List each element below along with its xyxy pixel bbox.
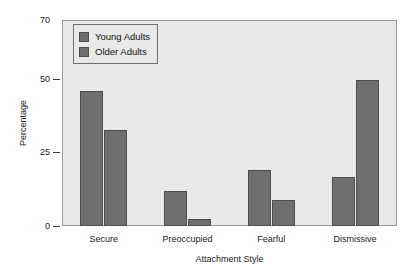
y-axis-tick-mark	[53, 152, 60, 153]
x-axis-title: Attachment Style	[62, 254, 397, 264]
legend-swatch-icon	[79, 47, 89, 57]
bar	[356, 80, 379, 226]
x-axis-tick-label: Dismissive	[295, 232, 414, 246]
legend-item-young-adults: Young Adults	[79, 29, 150, 44]
legend: Young Adults Older Adults	[73, 24, 158, 64]
y-axis-tick-mark	[53, 226, 60, 227]
legend-item-older-adults: Older Adults	[79, 44, 150, 59]
bar	[332, 177, 355, 226]
y-axis-tick-label: 25	[40, 145, 50, 159]
bar-chart: Percentage 0255070 SecurePreoccupiedFear…	[0, 0, 414, 277]
bar	[248, 170, 271, 226]
y-axis-title: Percentage	[16, 20, 30, 226]
bar	[164, 191, 187, 226]
y-axis-tick-mark	[53, 79, 60, 80]
bar	[104, 130, 127, 226]
bar	[80, 91, 103, 226]
y-axis-tick-label: 0	[45, 219, 50, 233]
legend-label: Older Adults	[95, 44, 147, 59]
bar	[272, 200, 295, 226]
y-axis-tick-label: 70	[40, 13, 50, 27]
bar	[188, 219, 211, 226]
y-axis-tick-label: 50	[40, 72, 50, 86]
legend-swatch-icon	[79, 32, 89, 42]
legend-label: Young Adults	[95, 29, 150, 44]
